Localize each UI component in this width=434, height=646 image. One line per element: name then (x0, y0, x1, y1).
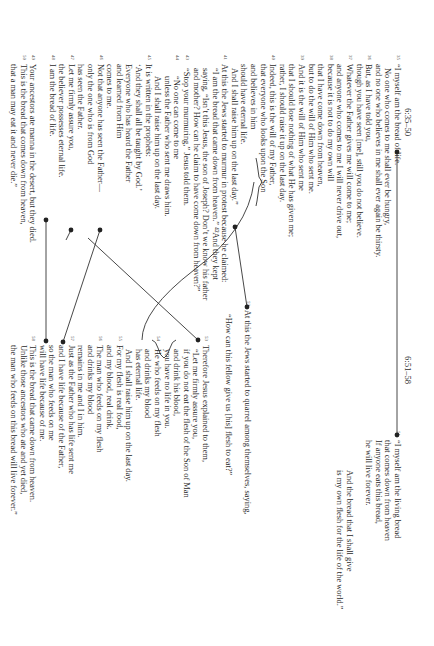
verse-number: 36 (365, 55, 375, 60)
verse-line: he will live forever. (364, 440, 374, 541)
verse-number: 51 (393, 431, 403, 436)
verse-line: and anyone who comes to me I will never … (335, 64, 345, 300)
verse-number: 57 (67, 336, 77, 341)
verse-line: has seen the Father. (76, 64, 86, 300)
verse-line: remains in me and I in him. (76, 345, 86, 515)
verse-line: comes to me. (105, 64, 115, 300)
verse-line: that I should lose nothing of what He ha… (287, 64, 297, 300)
verse-line: and no one who believes in me shall ever… (373, 64, 383, 300)
verse-line: “I am the bread that came down from heav… (210, 64, 220, 300)
verse-line: that I have come down from heaven, (316, 64, 326, 300)
verse-number: 41 (221, 55, 231, 60)
verse-number: 45 (144, 55, 154, 60)
verse-line: though you have seen [me], still you do … (354, 64, 364, 300)
verse-number: 38 (326, 55, 336, 60)
verse-line: 37Whatever the Father gives me will come… (344, 64, 354, 300)
right-passage-v53-58: 53Therefore Jesus explained to them,“Let… (9, 345, 210, 515)
verse-line: and drinks my blood (85, 345, 95, 515)
verse-line: that everyone who looks upon the Son (258, 64, 268, 300)
verse-line: and learned from Him (114, 64, 124, 300)
verse-line: the man who feeds on this bread will liv… (9, 345, 19, 515)
verse-number: 43 (182, 55, 192, 60)
verse-line: so the man who feeds on me (47, 345, 57, 515)
verse-number: 56 (96, 336, 106, 341)
verse-line: 43“Stop your murmuring,” Jesus told them… (181, 64, 191, 300)
verse-line: 44“No one can come to me (172, 64, 182, 300)
left-passage: 35“I myself am the bread of life.No one … (9, 64, 402, 300)
verse-number: 54 (153, 336, 163, 341)
verse-line: and my blood, real drink. (104, 345, 114, 515)
verse-number: 53 (201, 336, 211, 341)
verse-line: “How can this fellow give us [his] flesh… (223, 310, 233, 514)
verse-line: 47Let me firmly assure you, (66, 64, 76, 300)
verse-line: 39And it is the will of Him who sent me (296, 64, 306, 300)
verse-number: 35 (393, 55, 403, 60)
verse-line: will have life because of me. (37, 345, 47, 515)
verse-number: 49 (29, 55, 39, 60)
verse-line: 57Just as the Father who has life sent m… (66, 345, 76, 515)
verse-line: that a man may eat it and never die.” (9, 64, 19, 300)
verse-line: And the bread that I shall give (344, 470, 354, 610)
verse-line: Unlike those ancestors who ate and yet d… (18, 345, 28, 515)
verse-line: 51“I myself am the living bread (392, 440, 402, 541)
verse-line: 41At this the Jews started to murmur in … (220, 64, 230, 300)
verse-line: has eternal life. (133, 345, 143, 515)
verse-line: 55For my flesh is real food, (114, 345, 124, 515)
verse-number: 55 (115, 336, 125, 341)
verse-line (37, 64, 47, 300)
verse-line: and mother? How can he claim to have com… (191, 64, 201, 300)
right-passage-v51: 51“I myself am the living breadthat come… (364, 440, 402, 541)
verse-number: 44 (173, 55, 183, 60)
verse-line: and drink his blood, (172, 345, 182, 515)
verse-line: 54He who feeds on my flesh (152, 345, 162, 515)
verse-line: saying, “Isn’t this Jesus, the son of Jo… (201, 64, 211, 300)
verse-number: 50 (19, 55, 29, 60)
verse-line: And I shall raise him up on the last day… (124, 345, 134, 515)
verse-line: should have eternal life. (239, 64, 249, 300)
verse-line: rather, I should raise it up on the last… (277, 64, 287, 300)
verse-line: you have no life in you. (162, 345, 172, 515)
verse-line (233, 310, 243, 514)
verse-line: 46Not that anyone has seen the Father— (95, 64, 105, 300)
verse-number: 37 (345, 55, 355, 60)
verse-line: 38because it is not to do my own will (325, 64, 335, 300)
dot-icon (44, 339, 49, 344)
right-passage-v52: 52At this the Jews started to quarrel am… (223, 310, 252, 514)
verse-line: If anyone eats this bread, (373, 440, 383, 541)
rotated-page-frame: 6:35–50 35“I myself am the bread of life… (0, 0, 434, 646)
verse-line: the believer possesses eternal life. (57, 64, 67, 300)
verse-line: 36But, as I have told you, (364, 64, 374, 300)
verse-line: 45It is written in the prophets: (143, 64, 153, 300)
verse-line: unless the Father who sent me draws him. (162, 64, 172, 300)
dot-icon (196, 338, 201, 343)
verse-line: but to do the will of Him who sent me. (306, 64, 316, 300)
verse-number: 58 (29, 336, 39, 341)
verse-number: 46 (96, 55, 106, 60)
verse-line: And I shall raise him up on the last day… (153, 64, 163, 300)
verse-number: 48 (48, 55, 58, 60)
verse-line: 35“I myself am the bread of life. (392, 64, 402, 300)
verse-line: and believes in him (249, 64, 259, 300)
verse-line: that comes down from heaven (383, 440, 393, 541)
verse-number: 40 (269, 55, 279, 60)
verse-number: 47 (67, 55, 77, 60)
verse-line: “Let me firmly assure you, (191, 345, 201, 515)
verse-line: 49Your ancestors ate manna in the desert… (28, 64, 38, 300)
verse-line: is my own flesh for the life of the worl… (335, 470, 345, 610)
verse-line: 50This is the bread that comes down from… (18, 64, 28, 300)
dot-icon (61, 340, 66, 345)
verse-line: And I shall raise him up on the last day… (229, 64, 239, 300)
parallel-text-page: 6:35–50 35“I myself am the bread of life… (0, 0, 434, 646)
verse-line: if you do not eat the flesh of the Son o… (181, 345, 191, 515)
verse-line: and drinks my blood (143, 345, 153, 515)
verse-line: only the one who is from God (85, 64, 95, 300)
verse-number: 39 (297, 55, 307, 60)
verse-line: No one who comes to me shall ever be hun… (383, 64, 393, 300)
left-section-header: 6:35–50 (402, 108, 412, 136)
verse-line: 48I am the bread of life. (47, 64, 57, 300)
verse-line: 56The man who feeds on my flesh (95, 345, 105, 515)
right-passage-v51-cont: And the bread that I shall giveis my own… (335, 470, 354, 610)
verse-line: and I have life because of the Father, (57, 345, 67, 515)
verse-line: 53Therefore Jesus explained to them, (200, 345, 210, 515)
right-section-header: 6:51–58 (402, 356, 412, 384)
